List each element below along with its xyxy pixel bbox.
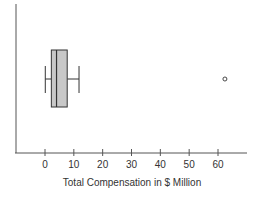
iqr-box bbox=[51, 50, 67, 107]
x-tick-label-30: 30 bbox=[126, 159, 138, 170]
x-tick-label-10: 10 bbox=[68, 159, 80, 170]
x-tick-label-40: 40 bbox=[155, 159, 167, 170]
x-axis-tick-labels: 0102030405060 bbox=[42, 159, 224, 170]
box-plot-chart: 0102030405060 Total Compensation in $ Mi… bbox=[0, 0, 257, 200]
box-group bbox=[45, 50, 227, 107]
x-axis-title: Total Compensation in $ Million bbox=[63, 177, 201, 188]
x-tick-label-50: 50 bbox=[184, 159, 196, 170]
x-tick-label-20: 20 bbox=[97, 159, 109, 170]
x-tick-label-60: 60 bbox=[212, 159, 224, 170]
outlier-point-0 bbox=[223, 77, 227, 81]
x-tick-label-0: 0 bbox=[42, 159, 48, 170]
